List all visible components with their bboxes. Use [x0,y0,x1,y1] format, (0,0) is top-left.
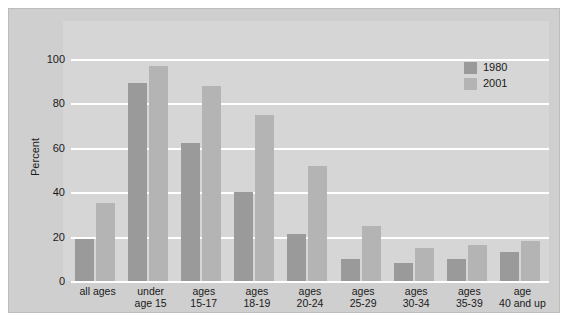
y-tick-label: 20 [19,232,65,242]
x-tick-line-1: ages [405,285,428,297]
bar-2001 [362,226,381,282]
bar-2001 [521,241,540,281]
y-tick-label: 100 [19,54,65,64]
legend: 19802001 [464,61,534,97]
bar-1980 [447,259,466,281]
bar-2001 [468,245,487,281]
y-tick-label: 80 [19,98,65,108]
x-tick-line-1: age [514,285,532,297]
legend-swatch-1980 [464,62,477,74]
bar-group [390,59,443,281]
bar-group [177,59,230,281]
figure: 020406080100 Percent all agesunderage 15… [0,0,577,328]
bar-1980 [234,192,253,281]
legend-entry: 2001 [464,77,534,92]
x-axis-line [71,281,549,283]
x-tick-line-1: ages [299,285,322,297]
bar-group [71,59,124,281]
y-tick-label: 40 [19,187,65,197]
bar-group [124,59,177,281]
y-tick-label: 0 [19,276,65,286]
x-tick-line-1: ages [192,285,215,297]
x-tick-label: age40 and up [486,285,559,309]
x-tick-line-1: ages [352,285,375,297]
legend-entry: 1980 [464,61,534,76]
bar-2001 [255,115,274,282]
bar-2001 [96,203,115,281]
bar-2001 [415,248,434,281]
legend-swatch-2001 [464,78,477,90]
y-axis-tick-labels: 020406080100 [17,9,65,328]
x-tick-line-1: ages [245,285,268,297]
x-tick-line-1: under [137,285,164,297]
bar-1980 [341,259,360,281]
bar-group [337,59,390,281]
bar-1980 [75,239,94,281]
bar-1980 [500,252,519,281]
bar-2001 [308,166,327,281]
chart-frame: 020406080100 Percent all agesunderage 15… [8,8,560,313]
x-tick-line-1: ages [458,285,481,297]
legend-label: 1980 [483,61,507,74]
bar-1980 [181,143,200,281]
bar-2001 [149,66,168,281]
bar-1980 [394,263,413,281]
legend-label: 2001 [483,77,507,90]
bar-group [283,59,336,281]
y-tick-label: 60 [19,143,65,153]
bar-2001 [202,86,221,281]
bar-1980 [287,234,306,281]
x-tick-line-2: 40 and up [486,297,559,309]
bar-group [230,59,283,281]
x-tick-line-1: all ages [79,285,115,297]
y-axis-title: Percent [29,127,41,187]
bar-1980 [128,83,147,281]
